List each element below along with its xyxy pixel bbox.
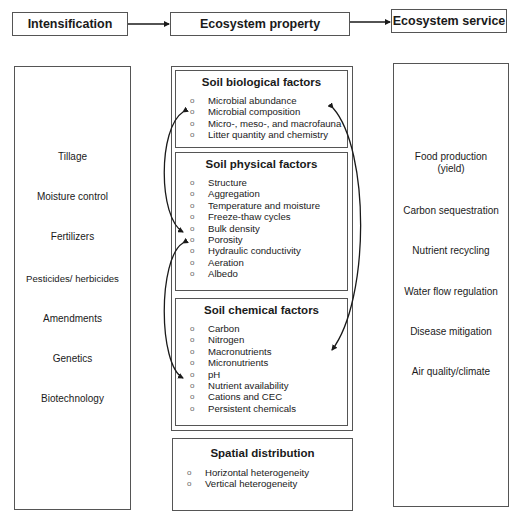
intensification-item: Amendments	[15, 313, 130, 325]
list-item: oNitrogen	[190, 334, 347, 345]
section-title: Spatial distribution	[173, 447, 352, 459]
list-item: oAggregation	[190, 188, 347, 199]
header-intensification-label: Intensification	[28, 17, 113, 31]
bullet-icon: o	[190, 129, 194, 140]
list-item: oAlbedo	[190, 268, 347, 279]
bullet-icon: o	[187, 478, 191, 489]
service-item: Food production	[394, 151, 508, 163]
intensification-item: Fertilizers	[15, 231, 130, 243]
section-soil-physical: Soil physical factors oStructure oAggreg…	[175, 152, 348, 291]
bullet-icon: o	[190, 106, 194, 117]
bullet-icon: o	[190, 177, 194, 188]
list-item: oLitter quantity and chemistry	[190, 129, 347, 140]
list-item: oMicrobial composition	[190, 106, 347, 117]
list-item: opH	[190, 369, 347, 380]
list-item: oMicro-, meso-, and macrofauna	[190, 118, 347, 129]
bullet-icon: o	[190, 357, 194, 368]
intensification-column: Tillage Moisture control Fertilizers Pes…	[14, 66, 131, 510]
bullet-icon: o	[190, 403, 194, 414]
intensification-item: Biotechnology	[15, 393, 130, 405]
bullet-icon: o	[190, 268, 194, 279]
header-property-label: Ecosystem property	[200, 17, 320, 31]
header-ecosystem-service: Ecosystem service	[391, 9, 507, 33]
list-item: oMacronutrients	[190, 346, 347, 357]
service-item: Carbon sequestration	[394, 205, 508, 217]
bullet-icon: o	[190, 346, 194, 357]
header-ecosystem-property: Ecosystem property	[170, 12, 350, 36]
service-item: Air quality/climate	[394, 366, 508, 378]
bullet-icon: o	[190, 200, 194, 211]
intensification-item: Tillage	[15, 151, 130, 163]
service-item: (yield)	[394, 163, 508, 175]
list-item: oCarbon	[190, 323, 347, 334]
list-item: oTemperature and moisture	[190, 200, 347, 211]
list-item: oStructure	[190, 177, 347, 188]
list-item: oBulk density	[190, 223, 347, 234]
section-title: Soil physical factors	[176, 158, 347, 170]
header-intensification: Intensification	[12, 12, 128, 36]
header-service-label: Ecosystem service	[393, 14, 506, 28]
list-item: oMicronutrients	[190, 357, 347, 368]
service-item: Disease mitigation	[394, 326, 508, 338]
bullet-icon: o	[190, 95, 194, 106]
bullet-icon: o	[190, 234, 194, 245]
service-item: Nutrient recycling	[394, 245, 508, 257]
bullet-icon: o	[190, 391, 194, 402]
section-title: Soil chemical factors	[176, 304, 347, 316]
section-soil-chemical: Soil chemical factors oCarbon oNitrogen …	[175, 298, 348, 426]
bullet-icon: o	[190, 223, 194, 234]
service-column: Food production (yield) Carbon sequestra…	[393, 63, 509, 507]
list-item: oFreeze-thaw cycles	[190, 211, 347, 222]
bullet-icon: o	[190, 380, 194, 391]
intensification-item: Genetics	[15, 353, 130, 365]
section-spatial-distribution: Spatial distribution oHorizontal heterog…	[172, 438, 353, 511]
bullet-icon: o	[190, 369, 194, 380]
list-item: oHydraulic conductivity	[190, 245, 347, 256]
bullet-icon: o	[190, 323, 194, 334]
bullet-icon: o	[190, 334, 194, 345]
bullet-icon: o	[187, 467, 191, 478]
intensification-item: Pesticides/ herbicides	[15, 273, 130, 285]
list-item: oHorizontal heterogeneity	[187, 467, 352, 478]
list-item: oVertical heterogeneity	[187, 478, 352, 489]
list-item: oNutrient availability	[190, 380, 347, 391]
section-title: Soil biological factors	[176, 76, 347, 88]
bullet-icon: o	[190, 118, 194, 129]
bullet-icon: o	[190, 211, 194, 222]
intensification-item: Moisture control	[15, 191, 130, 203]
list-item: oPorosity	[190, 234, 347, 245]
list-item: oMicrobial abundance	[190, 95, 347, 106]
bullet-icon: o	[190, 257, 194, 268]
list-item: oCations and CEC	[190, 391, 347, 402]
section-soil-biological: Soil biological factors oMicrobial abund…	[175, 70, 348, 148]
bullet-icon: o	[190, 188, 194, 199]
list-item: oPersistent chemicals	[190, 403, 347, 414]
bullet-icon: o	[190, 245, 194, 256]
list-item: oAeration	[190, 257, 347, 268]
service-item: Water flow regulation	[394, 286, 508, 298]
